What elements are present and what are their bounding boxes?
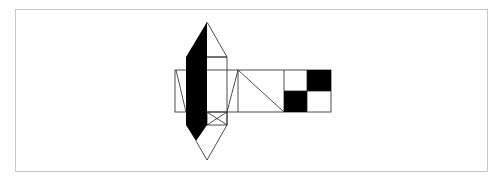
checker-cell-dark xyxy=(307,70,331,91)
outer-frame xyxy=(16,10,488,172)
diagram-canvas xyxy=(0,0,493,183)
checker-cell-dark xyxy=(284,91,307,112)
